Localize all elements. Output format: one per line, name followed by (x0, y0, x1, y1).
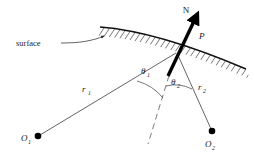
origin-one-dot (35, 133, 42, 140)
theta1-label-text: θ (141, 66, 146, 76)
theta2-label: θ 2 (171, 77, 180, 89)
reflection-geometry-figure: N P surface r 1 r 2 θ 1 θ 2 O 1 O 2 (0, 0, 255, 159)
theta1-label: θ 1 (141, 66, 150, 78)
ray-r2-label-text: r (198, 82, 202, 92)
surface-label: surface (16, 38, 41, 48)
ray-r1-line (40, 53, 176, 135)
ray-r2-label-sub: 2 (203, 88, 206, 94)
theta1-arc (137, 81, 163, 98)
origin-two-dot (209, 128, 216, 135)
surface-leader-line (61, 36, 104, 43)
diagram-canvas: N P surface r 1 r 2 θ 1 θ 2 O 1 O 2 (0, 0, 255, 159)
theta2-label-sub: 2 (177, 83, 180, 89)
origin-one-label-text: O (21, 133, 28, 143)
ray-r1-label-text: r (82, 84, 86, 94)
ray-r1-label: r 1 (82, 84, 91, 96)
normal-vector-arrow (168, 17, 196, 76)
origin-two-label: O 2 (205, 139, 215, 151)
origin-one-label-sub: 1 (28, 139, 31, 145)
origin-two-label-sub: 2 (212, 145, 215, 151)
origin-two-label-text: O (205, 139, 212, 149)
theta2-label-text: θ (171, 77, 176, 87)
origin-one-label: O 1 (21, 133, 31, 145)
point-P-label: P (198, 31, 205, 41)
normal-label: N (183, 5, 190, 15)
theta1-label-sub: 1 (147, 72, 150, 78)
normal-extension-dashed-line (148, 66, 172, 144)
ray-r1-label-sub: 1 (88, 90, 91, 96)
ray-r2-label: r 2 (198, 82, 206, 94)
